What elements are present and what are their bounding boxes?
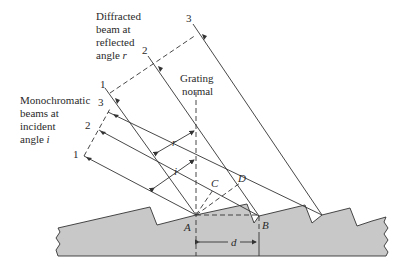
- incident-title-line2: beams at: [20, 107, 59, 119]
- grating-diagram: Diffracted beam at reflected angle r Mon…: [0, 0, 405, 266]
- normal-label-line1: Grating: [180, 72, 214, 84]
- incident-beam-3-label: 3: [98, 96, 104, 108]
- diffracted-ray-1: [105, 88, 196, 215]
- incident-ray-3: [108, 112, 322, 215]
- diffracted-beam-2-label: 2: [142, 44, 148, 56]
- point-b-label: B: [262, 219, 269, 231]
- incident-title-line3: incident: [20, 120, 55, 132]
- incident-arrow-1: [86, 157, 92, 161]
- angle-r-label: r: [172, 136, 177, 148]
- incident-ray-1: [84, 156, 196, 215]
- point-c-label: C: [211, 177, 219, 189]
- incident-arrow-3: [113, 114, 119, 118]
- incident-title-line1: Monochromatic: [20, 94, 90, 106]
- grating-surface: [56, 204, 388, 256]
- incident-wavefront: [84, 107, 111, 156]
- angle-i-label: i: [174, 165, 177, 177]
- incident-beam-1-label: 1: [73, 148, 79, 160]
- point-a-label: A: [183, 221, 191, 233]
- diffracted-beam-1-label: 1: [100, 78, 106, 90]
- ac-line: [196, 190, 213, 215]
- point-d-label: D: [237, 172, 246, 184]
- diffracted-title-line3: reflected: [96, 36, 135, 48]
- normal-label-line2: normal: [182, 85, 213, 97]
- diffracted-title-line2: beam at: [96, 23, 131, 35]
- diffracted-beam-3-label: 3: [186, 12, 192, 24]
- incident-title-line4: angle i: [20, 133, 50, 145]
- diffracted-title-line1: Diffracted: [96, 10, 141, 22]
- diffracted-title-line4: angle r: [96, 49, 128, 61]
- incident-beam-2-label: 2: [85, 119, 91, 131]
- spacing-d-label: d: [231, 236, 237, 248]
